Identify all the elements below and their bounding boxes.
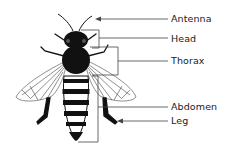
head-bracket	[81, 30, 168, 38]
head-bracket-lower	[92, 38, 99, 48]
left-hind-leg	[37, 98, 50, 124]
abdomen	[63, 76, 90, 141]
label-head: Head	[171, 34, 196, 44]
antennae	[58, 14, 92, 31]
thorax	[62, 46, 90, 74]
label-antenna: Antenna	[171, 14, 212, 24]
antenna-arrowhead	[95, 17, 101, 22]
label-leg: Leg	[171, 116, 188, 126]
label-thorax: Thorax	[171, 56, 205, 66]
label-abdomen: Abdomen	[171, 102, 217, 112]
leg-arrowhead	[117, 119, 123, 124]
right-hind-leg	[103, 98, 117, 124]
